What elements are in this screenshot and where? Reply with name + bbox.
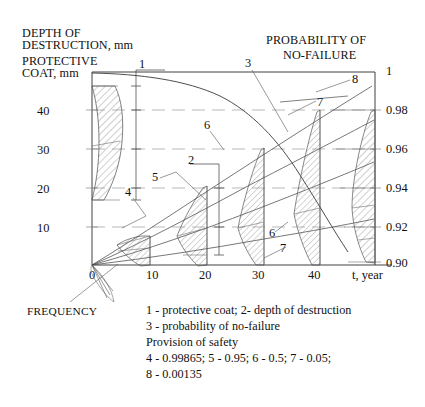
distribution-t30 — [238, 148, 264, 265]
station-lines — [150, 110, 320, 265]
distribution-t20 — [177, 186, 207, 266]
figure-root: DEPTH OF DESTRUCTION, mm PROTECTIVE COAT… — [0, 0, 425, 407]
chart-drawing — [0, 0, 425, 407]
distribution-t40 — [294, 110, 320, 265]
distribution-probability — [352, 110, 375, 263]
grid-horizontal — [92, 110, 375, 227]
distribution-t0 — [91, 265, 114, 302]
series-8-quantile-000135 — [280, 96, 348, 102]
distribution-protective-coat — [92, 86, 123, 200]
series-1-protective-coat — [131, 70, 165, 200]
